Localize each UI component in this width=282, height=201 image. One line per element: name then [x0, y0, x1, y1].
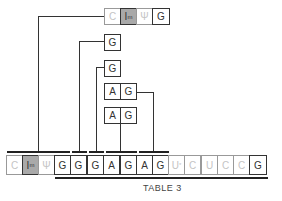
- fragment-ag-1-g: G: [120, 83, 137, 100]
- seq-cell-7: A: [103, 155, 120, 175]
- seq-cell-15: C: [233, 155, 250, 175]
- table-caption: TABLE 3: [143, 183, 182, 193]
- seq-cell-6: G: [87, 155, 104, 175]
- segment-bar-2: [72, 151, 87, 153]
- seq-cell-4: G: [54, 155, 71, 175]
- connector-g1-h: [79, 41, 104, 42]
- seq-cell-10: G: [152, 155, 169, 175]
- connector-ag1-h: [137, 92, 153, 93]
- seq-cell-5: G: [70, 155, 87, 175]
- top-fragment-cell-g: G: [152, 8, 170, 25]
- seq-cell-14: C: [217, 155, 234, 175]
- seq-cell-11: U*: [168, 155, 185, 175]
- top-fragment-cell-im: Im: [120, 8, 137, 25]
- seq-cell-16: G: [249, 155, 267, 175]
- seq-cell-2: Im: [22, 155, 39, 175]
- segment-bar-4: [106, 151, 137, 153]
- underline-bar: [55, 177, 268, 179]
- seq-cell-1: C: [6, 155, 23, 175]
- seq-cell-3: Ψ: [38, 155, 55, 175]
- fragment-ag-2-g: G: [120, 107, 137, 124]
- top-fragment-cell-c: C: [104, 8, 121, 25]
- seq-cell-13: U: [201, 155, 218, 175]
- top-fragment-cell-psi: Ψ: [136, 8, 153, 25]
- fragment-g-2: G: [104, 60, 121, 77]
- connector-ag1-v: [153, 92, 154, 152]
- seq-cell-9: A: [136, 155, 153, 175]
- connector-g2-v: [96, 67, 97, 152]
- seq-cell-12: C: [184, 155, 201, 175]
- segment-bar-5: [139, 151, 169, 153]
- segment-bar-3: [89, 151, 104, 153]
- connector-top-h: [38, 16, 104, 17]
- connector-ag2-v: [120, 124, 121, 152]
- fragment-ag-1-a: A: [104, 83, 121, 100]
- fragment-ag-2-a: A: [104, 107, 121, 124]
- fragment-g-1: G: [104, 34, 121, 51]
- connector-g2-h: [96, 67, 104, 68]
- connector-g1-v: [79, 41, 80, 152]
- segment-bar-1: [7, 151, 70, 153]
- connector-top-v: [38, 16, 39, 152]
- seq-cell-8: G: [120, 155, 137, 175]
